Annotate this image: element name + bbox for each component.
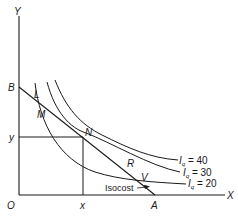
x-axis-label: X xyxy=(226,190,234,201)
isoquant-20 xyxy=(35,83,186,184)
isoquant-40 xyxy=(55,80,178,160)
isocost-line xyxy=(19,87,155,195)
equilibrium-x-label: x xyxy=(79,200,86,211)
isocost-label: Isocost xyxy=(105,183,134,193)
isoquant-30 xyxy=(47,82,180,172)
isoquant-40-label: Iq = 40 xyxy=(179,155,208,167)
y-axis-label: Y xyxy=(14,6,22,17)
point-b-label: B xyxy=(8,82,15,93)
isoquant-20-label: Iq = 20 xyxy=(188,178,217,190)
point-m-label: M xyxy=(37,109,46,120)
point-n-label: N xyxy=(85,127,93,138)
point-r-label: R xyxy=(127,158,134,169)
isoquant-diagram: Y X O B A L M N R V y x Iq = 40 Iq = 30 … xyxy=(0,0,238,219)
point-l-label: L xyxy=(34,89,40,100)
origin-label: O xyxy=(7,200,15,211)
point-a-label: A xyxy=(150,200,158,211)
equilibrium-y-label: y xyxy=(8,132,15,143)
